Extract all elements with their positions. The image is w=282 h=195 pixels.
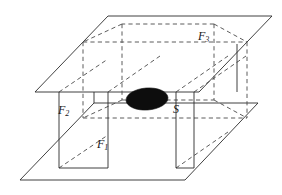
region-s-ellipse — [125, 87, 168, 112]
label-s: S — [173, 103, 179, 115]
bottom-plane-parallelogram — [20, 103, 258, 180]
label-f1: F1 — [97, 138, 108, 152]
label-s-base: S — [173, 102, 179, 116]
dashed-depth-line-2 — [108, 56, 160, 92]
label-f2: F2 — [58, 104, 69, 118]
label-f3: F3 — [198, 30, 209, 44]
label-f1-sub: 1 — [104, 143, 108, 152]
top-plane-parallelogram — [35, 16, 272, 92]
label-f2-sub: 2 — [65, 109, 69, 118]
label-f3-sub: 3 — [205, 35, 209, 44]
dashed-depth-line-0 — [59, 59, 108, 92]
dashed-box-edge-11 — [214, 24, 247, 42]
figure-container: F3 F2 F1 S — [0, 0, 282, 195]
dashed-box-edge-9 — [83, 24, 122, 42]
geometry-diagram — [0, 0, 282, 195]
